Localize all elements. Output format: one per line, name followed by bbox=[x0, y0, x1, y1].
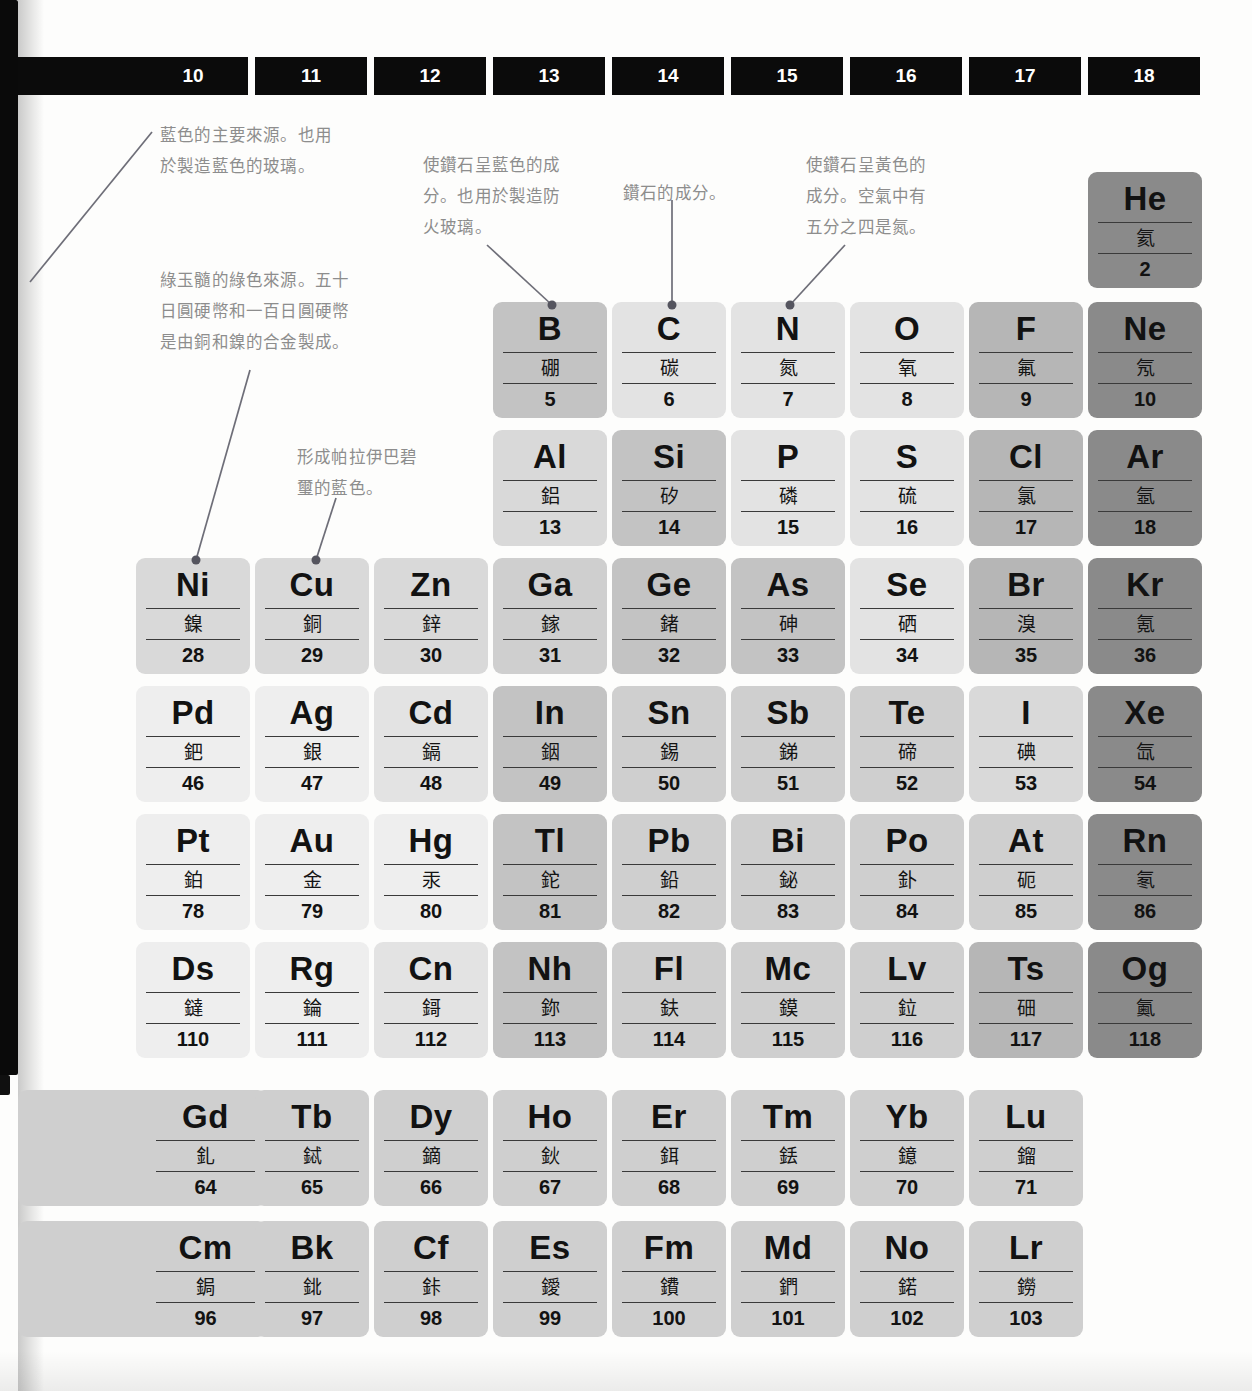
element-name-zh: 鈇 bbox=[620, 993, 718, 1023]
element-cell-pb[interactable]: Pb鉛82 bbox=[612, 814, 726, 930]
element-cell-gd[interactable]: Gd釓64 bbox=[18, 1090, 267, 1206]
element-cell-cu[interactable]: Cu銅29 bbox=[255, 558, 369, 674]
element-name-zh: 錫 bbox=[620, 737, 718, 767]
element-cell-ts[interactable]: Ts鿬117 bbox=[969, 942, 1083, 1058]
element-cell-rn[interactable]: Rn氡86 bbox=[1088, 814, 1202, 930]
element-cell-nh[interactable]: Nh鉨113 bbox=[493, 942, 607, 1058]
element-cell-yb[interactable]: Yb鐿70 bbox=[850, 1090, 964, 1206]
element-cell-ne[interactable]: Ne氖10 bbox=[1088, 302, 1202, 418]
element-cell-i[interactable]: I碘53 bbox=[969, 686, 1083, 802]
element-symbol: Ho bbox=[501, 1094, 599, 1140]
element-atomic-number: 48 bbox=[382, 768, 480, 798]
element-cell-ga[interactable]: Ga鎵31 bbox=[493, 558, 607, 674]
element-name-zh: 氧 bbox=[858, 353, 956, 383]
element-cell-cl[interactable]: Cl氯17 bbox=[969, 430, 1083, 546]
element-cell-fm[interactable]: Fm鐨100 bbox=[612, 1221, 726, 1337]
element-cell-se[interactable]: Se硒34 bbox=[850, 558, 964, 674]
element-cell-he[interactable]: He氦2 bbox=[1088, 172, 1202, 288]
group-header-label: 11 bbox=[301, 65, 321, 87]
element-cell-ni[interactable]: Ni鎳28 bbox=[136, 558, 250, 674]
element-name-zh: 硒 bbox=[858, 609, 956, 639]
element-cell-f[interactable]: F氟9 bbox=[969, 302, 1083, 418]
element-cell-kr[interactable]: Kr氪36 bbox=[1088, 558, 1202, 674]
group-header-label: 10 bbox=[182, 65, 203, 87]
element-symbol: Pb bbox=[620, 818, 718, 864]
element-cell-no[interactable]: No鍩102 bbox=[850, 1221, 964, 1337]
element-cell-s[interactable]: S硫16 bbox=[850, 430, 964, 546]
element-atomic-number: 102 bbox=[858, 1303, 956, 1333]
element-cell-og[interactable]: Og鿫118 bbox=[1088, 942, 1202, 1058]
element-cell-hg[interactable]: Hg汞80 bbox=[374, 814, 488, 930]
element-cell-bi[interactable]: Bi鉍83 bbox=[731, 814, 845, 930]
element-cell-tl[interactable]: Tl鉈81 bbox=[493, 814, 607, 930]
element-cell-as[interactable]: As砷33 bbox=[731, 558, 845, 674]
element-atomic-number: 116 bbox=[858, 1024, 956, 1054]
group-header-14: 14 bbox=[612, 57, 724, 95]
element-name-zh: 鋅 bbox=[382, 609, 480, 639]
element-cell-p[interactable]: P磷15 bbox=[731, 430, 845, 546]
element-cell-mc[interactable]: Mc鏌115 bbox=[731, 942, 845, 1058]
element-cell-ho[interactable]: Ho鈥67 bbox=[493, 1090, 607, 1206]
element-cell-tb[interactable]: Tb鋱65 bbox=[255, 1090, 369, 1206]
element-cell-md[interactable]: Md鍆101 bbox=[731, 1221, 845, 1337]
note-nitrogen: 使鑽石呈黃色的 成分。空氣中有 五分之四是氮。 bbox=[806, 150, 986, 243]
element-name-zh: 鎳 bbox=[144, 609, 242, 639]
element-cell-c[interactable]: C碳6 bbox=[612, 302, 726, 418]
element-cell-cn[interactable]: Cn鎶112 bbox=[374, 942, 488, 1058]
element-cell-au[interactable]: Au金79 bbox=[255, 814, 369, 930]
element-symbol: Og bbox=[1096, 946, 1194, 992]
element-atomic-number: 7 bbox=[739, 384, 837, 414]
element-cell-ds[interactable]: Ds鐽110 bbox=[136, 942, 250, 1058]
element-cell-xe[interactable]: Xe氙54 bbox=[1088, 686, 1202, 802]
element-cell-al[interactable]: Al鋁13 bbox=[493, 430, 607, 546]
element-cell-sn[interactable]: Sn錫50 bbox=[612, 686, 726, 802]
element-cell-lr[interactable]: Lr鐒103 bbox=[969, 1221, 1083, 1337]
element-atomic-number: 36 bbox=[1096, 640, 1194, 670]
page-gutter-shadow bbox=[0, 0, 18, 1075]
element-cell-tm[interactable]: Tm銩69 bbox=[731, 1090, 845, 1206]
element-name-zh: 碲 bbox=[858, 737, 956, 767]
element-name-zh: 鉛 bbox=[620, 865, 718, 895]
element-name-zh: 銩 bbox=[739, 1141, 837, 1171]
element-cell-cf[interactable]: Cf鉲98 bbox=[374, 1221, 488, 1337]
element-cell-fl[interactable]: Fl鈇114 bbox=[612, 942, 726, 1058]
group-header-12: 12 bbox=[374, 57, 486, 95]
element-symbol: P bbox=[739, 434, 837, 480]
element-cell-lv[interactable]: Lv鉝116 bbox=[850, 942, 964, 1058]
element-atomic-number: 65 bbox=[263, 1172, 361, 1202]
element-symbol: Ne bbox=[1096, 306, 1194, 352]
group-header-18: 18 bbox=[1088, 57, 1200, 95]
element-cell-ge[interactable]: Ge鍺32 bbox=[612, 558, 726, 674]
element-cell-at[interactable]: At砈85 bbox=[969, 814, 1083, 930]
element-cell-es[interactable]: Es鑀99 bbox=[493, 1221, 607, 1337]
element-cell-po[interactable]: Po釙84 bbox=[850, 814, 964, 930]
element-cell-ar[interactable]: Ar氬18 bbox=[1088, 430, 1202, 546]
group-header-13: 13 bbox=[493, 57, 605, 95]
element-cell-pt[interactable]: Pt鉑78 bbox=[136, 814, 250, 930]
element-cell-ag[interactable]: Ag銀47 bbox=[255, 686, 369, 802]
element-cell-b[interactable]: B硼5 bbox=[493, 302, 607, 418]
element-cell-er[interactable]: Er鉺68 bbox=[612, 1090, 726, 1206]
element-cell-cd[interactable]: Cd鎘48 bbox=[374, 686, 488, 802]
element-cell-rg[interactable]: Rg錀111 bbox=[255, 942, 369, 1058]
element-cell-sb[interactable]: Sb銻51 bbox=[731, 686, 845, 802]
element-cell-n[interactable]: N氮7 bbox=[731, 302, 845, 418]
element-cell-pd[interactable]: Pd鈀46 bbox=[136, 686, 250, 802]
element-symbol: I bbox=[977, 690, 1075, 736]
element-symbol: Er bbox=[620, 1094, 718, 1140]
element-symbol: Cl bbox=[977, 434, 1075, 480]
element-cell-dy[interactable]: Dy鏑66 bbox=[374, 1090, 488, 1206]
element-cell-o[interactable]: O氧8 bbox=[850, 302, 964, 418]
element-cell-lu[interactable]: Lu鎦71 bbox=[969, 1090, 1083, 1206]
element-cell-in[interactable]: In銦49 bbox=[493, 686, 607, 802]
element-symbol: Rn bbox=[1096, 818, 1194, 864]
element-cell-bk[interactable]: Bk鉳97 bbox=[255, 1221, 369, 1337]
element-cell-br[interactable]: Br溴35 bbox=[969, 558, 1083, 674]
element-cell-zn[interactable]: Zn鋅30 bbox=[374, 558, 488, 674]
group-header-label: 17 bbox=[1014, 65, 1035, 87]
element-cell-si[interactable]: Si矽14 bbox=[612, 430, 726, 546]
element-name-zh: 氡 bbox=[1096, 865, 1194, 895]
element-symbol: C bbox=[620, 306, 718, 352]
element-cell-te[interactable]: Te碲52 bbox=[850, 686, 964, 802]
element-cell-cm[interactable]: Cm鋦96 bbox=[18, 1221, 267, 1337]
